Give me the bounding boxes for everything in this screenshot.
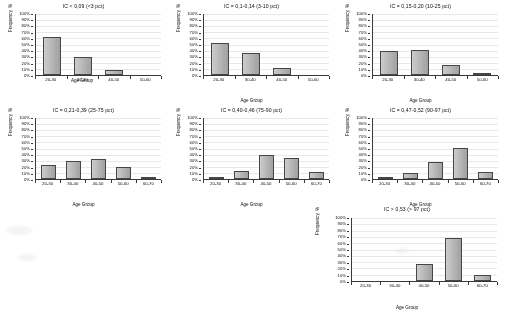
y-tick-label: 40% [22, 49, 30, 53]
y-tick-label: 50% [359, 43, 367, 47]
y-tick-label: 70% [190, 30, 198, 34]
y-tick-label: 30% [190, 159, 198, 163]
chart-title: IC = 0,21-0,39 (25-75 pct) [0, 107, 167, 113]
y-tick-label: 80% [359, 24, 367, 28]
y-tick-label: 20% [359, 61, 367, 65]
y-tick-label: 80% [22, 128, 30, 132]
bar-slot [86, 118, 111, 179]
y-tick-label: 70% [338, 235, 346, 239]
y-tick-label: 20% [359, 165, 367, 169]
y-tick-mark [199, 64, 201, 65]
y-tick-label: 80% [190, 128, 198, 132]
x-tick-label: 30-40 [397, 181, 422, 186]
y-tick-mark [368, 51, 370, 52]
y-tick-label: 20% [22, 165, 30, 169]
bar [105, 70, 123, 75]
y-tick-mark [31, 149, 33, 150]
x-tick-label: 60-70 [136, 181, 161, 186]
y-tick-mark [199, 57, 201, 58]
bar-series [36, 118, 161, 179]
bar [116, 167, 131, 179]
bar-slot [130, 14, 161, 75]
y-tick-label: 10% [22, 68, 30, 72]
y-tick-label: 100% [356, 12, 367, 16]
y-tick-mark [347, 231, 349, 232]
x-axis-title: Age Group [337, 98, 504, 103]
x-tick-label: 60-70 [473, 181, 498, 186]
y-tick-label: 90% [359, 18, 367, 22]
y-tick-mark [199, 14, 201, 15]
x-axis-tick-labels: 20-3030-4040-5050-60 [203, 77, 329, 82]
plot-area [35, 14, 161, 76]
y-tick-mark [31, 39, 33, 40]
y-tick-label: 80% [190, 24, 198, 28]
bar [473, 73, 491, 75]
y-tick-mark [31, 168, 33, 169]
y-tick-label: 100% [187, 116, 198, 120]
y-tick-mark [199, 137, 201, 138]
x-axis-tick-labels: 20-3030-4040-5050-6060-70 [351, 283, 497, 288]
bar-slot [373, 14, 404, 75]
x-tick-label: 30-40 [228, 181, 253, 186]
y-axis-tick-labels: 100%90%80%70%60%50%40%30%20%10%0% [0, 118, 33, 180]
y-tick-mark [31, 70, 33, 71]
bar-slot [235, 14, 266, 75]
y-axis-tick-labels: 100%90%80%70%60%50%40%30%20%10%0% [0, 14, 33, 76]
y-tick-label: 40% [338, 254, 346, 258]
y-tick-mark [199, 168, 201, 169]
chart-title: IC = 0,15-0,20 (10-25 pct) [337, 3, 504, 9]
y-tick-label: 90% [22, 122, 30, 126]
y-tick-mark [347, 282, 349, 283]
y-tick-mark [199, 76, 201, 77]
y-tick-mark [199, 130, 201, 131]
bar-slot [468, 218, 497, 281]
y-tick-label: 100% [19, 12, 30, 16]
y-tick-label: 90% [190, 18, 198, 22]
bar [91, 159, 106, 179]
y-tick-label: 50% [22, 147, 30, 151]
bar-slot [99, 14, 130, 75]
x-axis-tick-labels: 20-3030-4040-5050-6060-70 [35, 181, 161, 186]
x-tick-label: 60-70 [304, 181, 329, 186]
y-tick-mark [31, 155, 33, 156]
y-tick-mark [199, 45, 201, 46]
x-tick-label: 20-30 [35, 181, 60, 186]
x-tick-label: 30-40 [404, 77, 436, 82]
y-tick-label: 70% [22, 30, 30, 34]
bar-series [204, 118, 329, 179]
y-tick-label: 60% [359, 141, 367, 145]
y-tick-label: 0% [192, 74, 198, 78]
bar-slot [410, 218, 439, 281]
chart-title: IC = 0,1-0,14 (3-10 pct) [168, 3, 335, 9]
bar [453, 148, 468, 179]
y-tick-mark [31, 33, 33, 34]
y-tick-label: 60% [190, 37, 198, 41]
x-tick-label: 40-50 [266, 77, 298, 82]
y-tick-mark [199, 161, 201, 162]
y-tick-mark [199, 70, 201, 71]
y-tick-label: 30% [22, 159, 30, 163]
bar-slot [373, 118, 398, 179]
bar [478, 172, 493, 179]
x-tick-label: 20-30 [351, 283, 380, 288]
x-tick-label: 40-50 [409, 283, 438, 288]
y-tick-mark [368, 64, 370, 65]
y-tick-mark [347, 256, 349, 257]
x-axis-title: Age Group [0, 202, 167, 207]
bar-slot [398, 118, 423, 179]
y-tick-mark [199, 51, 201, 52]
bar [416, 264, 433, 281]
y-tick-label: 20% [190, 165, 198, 169]
chart-title: IC > 0,53 (> 97 pct) [307, 206, 507, 212]
y-tick-label: 20% [338, 267, 346, 271]
y-tick-mark [31, 143, 33, 144]
x-tick-label: 40-50 [253, 181, 278, 186]
x-tick-label: 50-60 [448, 181, 473, 186]
bar [259, 155, 274, 179]
bar-slot [36, 14, 67, 75]
bar-slot [298, 14, 329, 75]
y-tick-label: 50% [359, 147, 367, 151]
y-tick-mark [368, 168, 370, 169]
bar-slot [204, 14, 235, 75]
x-tick-label: 40-50 [85, 181, 110, 186]
